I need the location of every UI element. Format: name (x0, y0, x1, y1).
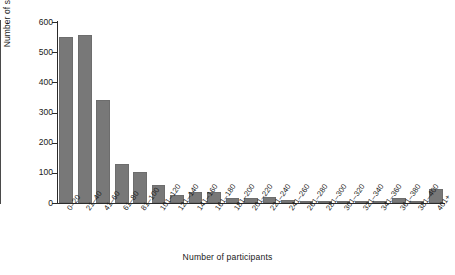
bar (96, 100, 110, 203)
vertical-reference-line (0, 20, 1, 204)
y-axis-tick-mark (52, 113, 57, 114)
y-axis-tick-labels: 0100200300400500600 (28, 0, 53, 275)
y-axis-tick-label: 400 (31, 78, 53, 87)
bar-chart-figure: Number of studies 0100200300400500600 0–… (0, 0, 455, 275)
y-axis-tick-mark (52, 203, 57, 204)
y-axis-tick-label: 300 (31, 108, 53, 117)
y-axis-tick-label: 0 (31, 199, 53, 208)
bar (59, 37, 73, 203)
y-axis-tick-mark (52, 22, 57, 23)
y-axis-title: Number of studies (2, 0, 16, 72)
y-axis-tick-label: 200 (31, 138, 53, 147)
bar (78, 35, 92, 203)
x-axis-title: Number of participants (0, 252, 455, 262)
y-axis-tick-mark (52, 173, 57, 174)
plot-area (57, 22, 445, 203)
y-axis-tick-label: 600 (31, 18, 53, 27)
x-axis-tick-labels: 0–2021–4041–6061–8081–100101–120121–1401… (57, 203, 445, 273)
y-axis-tick-label: 500 (31, 48, 53, 57)
y-axis-tick-label: 100 (31, 168, 53, 177)
y-axis-tick-mark (52, 82, 57, 83)
y-axis-tick-mark (52, 143, 57, 144)
y-axis-tick-mark (52, 52, 57, 53)
